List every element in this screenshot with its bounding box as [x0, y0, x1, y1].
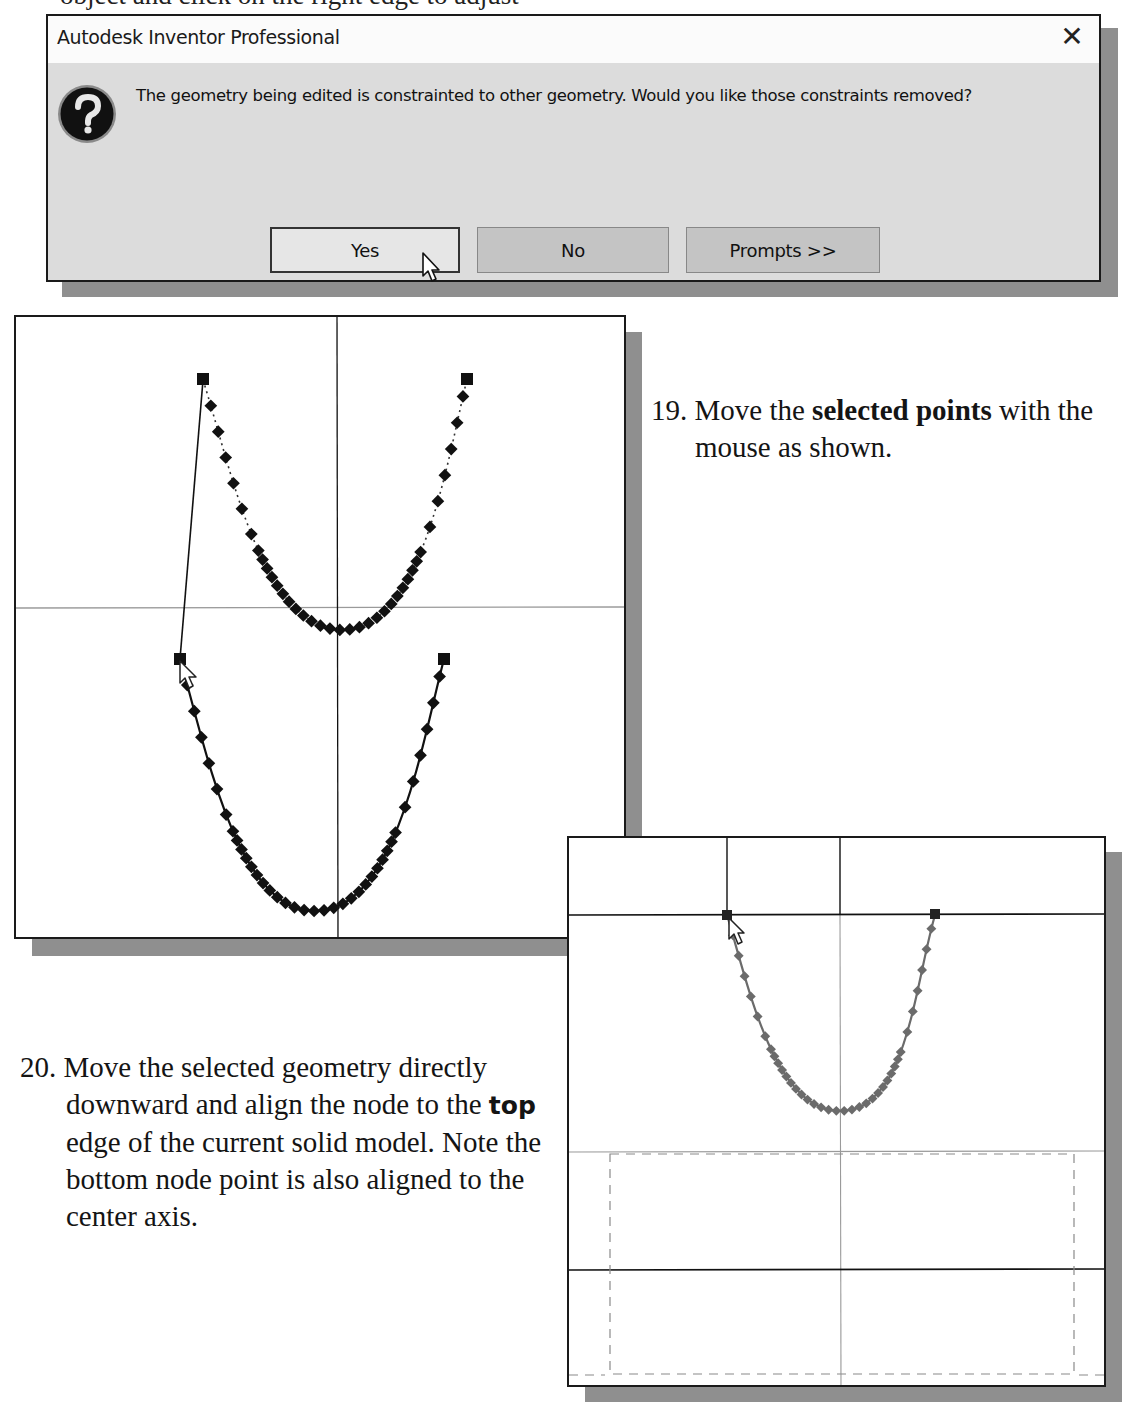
mouse-cursor-icon	[729, 918, 744, 944]
prompts-button[interactable]: Prompts >>	[686, 227, 880, 273]
moved-endpoint-right[interactable]	[438, 653, 450, 665]
model-edge-line	[569, 1269, 1106, 1270]
step-number: 20.	[20, 1051, 56, 1083]
mouse-cursor-icon	[422, 252, 444, 284]
partial-instruction-text: object and click on the right edge to ad…	[60, 0, 519, 11]
step-text: Move the selected geometry directly down…	[64, 1051, 489, 1120]
step-text: edge of the current solid model. Note th…	[66, 1126, 541, 1232]
left-sketch-viewport[interactable]	[14, 315, 626, 939]
right-sketch-canvas	[569, 838, 1106, 1387]
aligned-endpoint-right[interactable]	[930, 909, 940, 919]
dialog-title: Autodesk Inventor Professional	[57, 26, 340, 48]
question-icon	[56, 83, 118, 145]
step-19-instruction: 19. Move the selected points with the mo…	[651, 392, 1138, 466]
moved-spline	[180, 659, 444, 911]
horizontal-axis	[16, 607, 626, 608]
no-button[interactable]: No	[477, 227, 669, 273]
emphasis-top: top	[489, 1091, 536, 1120]
step-20-instruction: 20. Move the selected geometry directly …	[20, 1049, 560, 1235]
emphasis-selected-points: selected points	[812, 394, 992, 426]
moved-spline-points	[181, 670, 446, 917]
dialog-message: The geometry being edited is constrainte…	[136, 86, 972, 105]
right-sketch-viewport[interactable]	[567, 836, 1106, 1387]
spline-endpoint-right[interactable]	[461, 373, 473, 385]
model-top-edge	[569, 914, 1106, 915]
hidden-outline-dashed	[610, 1154, 1074, 1374]
model-horizontal-guide	[569, 1151, 1106, 1152]
constraint-removal-dialog: Autodesk Inventor Professional ✕ The geo…	[46, 14, 1101, 282]
step-text: Move the	[695, 394, 813, 426]
dialog-titlebar[interactable]: Autodesk Inventor Professional ✕	[48, 16, 1099, 63]
aligned-spline-points	[728, 924, 936, 1116]
step-number: 19.	[651, 394, 687, 426]
close-icon[interactable]: ✕	[1057, 20, 1087, 54]
left-sketch-canvas	[16, 317, 626, 939]
drag-rubberband-line	[180, 380, 203, 659]
